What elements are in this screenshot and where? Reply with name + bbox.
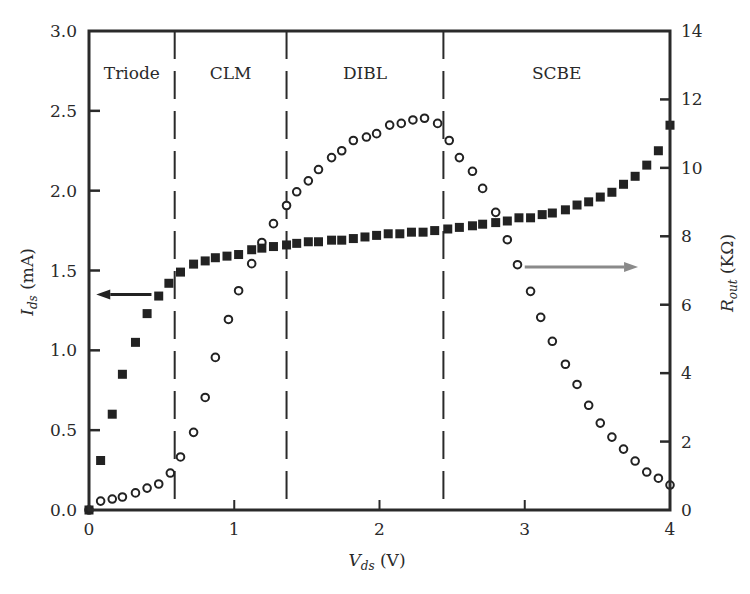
rout-circle-marker <box>608 433 616 441</box>
ids-square-marker <box>455 223 464 232</box>
region-label-dibl: DIBL <box>343 63 387 83</box>
right-y-tick-label: 4 <box>681 363 692 383</box>
region-label-clm: CLM <box>210 63 252 83</box>
x-axis-label-unit: (V) <box>375 550 406 570</box>
ids-square-marker <box>654 146 663 155</box>
left-y-axis-label-unit: (mA) <box>17 248 37 295</box>
ids-square-marker <box>131 338 140 347</box>
ids-square-marker <box>468 221 477 230</box>
rout-circle-marker <box>445 137 453 145</box>
ids-square-marker <box>96 456 105 465</box>
ids-square-marker <box>573 201 582 210</box>
x-tick-label: 4 <box>665 519 676 539</box>
ids-square-marker <box>269 242 278 251</box>
rout-circle-marker <box>585 402 593 410</box>
ids-square-marker <box>118 370 127 379</box>
ids-square-marker <box>384 229 393 238</box>
rout-circle-marker <box>514 261 522 269</box>
left-y-axis-label-sub: ds <box>26 295 40 309</box>
ids-square-marker <box>247 245 256 254</box>
rout-circle-marker <box>328 154 336 162</box>
ids-square-marker <box>282 240 291 249</box>
ids-square-marker <box>561 205 570 214</box>
rout-circle-marker <box>283 202 291 210</box>
x-tick-label: 0 <box>84 519 95 539</box>
rout-circle-marker <box>167 469 175 477</box>
ids-square-marker <box>222 252 231 261</box>
ids-square-marker <box>234 250 243 259</box>
x-tick-label: 1 <box>229 519 240 539</box>
rout-circle-marker <box>132 489 140 497</box>
rout-circle-marker <box>655 474 663 482</box>
rout-circle-marker <box>225 316 233 324</box>
ids-square-marker <box>108 410 117 419</box>
ids-square-marker <box>491 218 500 227</box>
rout-circle-marker <box>97 497 105 505</box>
ids-square-marker <box>143 309 152 318</box>
left-y-tick-label: 1.5 <box>50 261 77 281</box>
ids-square-marker <box>211 253 220 262</box>
rout-circle-marker <box>421 114 429 122</box>
rout-circle-marker <box>143 484 151 492</box>
right-y-axis-label-main: R <box>717 299 737 313</box>
right-y-tick-label: 8 <box>681 226 692 246</box>
rout-circle-marker <box>350 137 358 145</box>
ids-square-marker <box>201 256 210 265</box>
right-y-tick-label: 12 <box>681 89 703 109</box>
ids-square-marker <box>631 172 640 181</box>
left-y-tick-label: 2.0 <box>50 181 77 201</box>
ids-square-marker <box>419 228 428 237</box>
left-y-tick-label: 1.0 <box>50 340 77 360</box>
region-dividers <box>175 31 444 510</box>
rout-circle-marker <box>620 445 628 453</box>
region-label-triode: Triode <box>104 63 160 83</box>
x-axis-ticks: 01234 <box>84 500 676 539</box>
ids-square-marker <box>257 244 266 253</box>
rout-circle-marker <box>596 419 604 427</box>
rout-circle-marker <box>305 177 313 185</box>
right-y-axis-label-unit: (KΩ) <box>717 234 737 279</box>
rout-circle-marker <box>270 220 278 228</box>
right-y-tick-label: 14 <box>681 21 703 41</box>
ids-square-marker <box>538 210 547 219</box>
right-y-tick-label: 0 <box>681 500 692 520</box>
rout-circle-marker <box>338 147 346 155</box>
rout-circle-marker <box>119 493 127 501</box>
rout-circle-marker <box>190 429 198 437</box>
ids-square-marker <box>548 209 557 218</box>
ids-square-marker <box>443 224 452 233</box>
rout-circle-marker <box>363 133 371 141</box>
ids-square-marker <box>478 220 487 229</box>
arrow-right-icon <box>624 262 638 272</box>
rout-circle-marker <box>155 480 163 488</box>
right-y-tick-label: 6 <box>681 295 692 315</box>
rout-circle-marker <box>409 116 417 124</box>
ids-square-marker <box>607 188 616 197</box>
rout-circle-marker <box>549 338 557 346</box>
x-axis-label: Vds (V) <box>348 550 405 573</box>
rout-circle-marker <box>469 167 477 175</box>
left-y-axis-label: Ids (mA) <box>17 248 40 317</box>
ids-square-marker <box>292 239 301 248</box>
rout-circle-marker <box>492 209 500 217</box>
ids-square-marker <box>349 234 358 243</box>
rout-circle-marker <box>235 287 243 295</box>
ids-square-marker <box>619 180 628 189</box>
ids-square-marker <box>176 268 185 277</box>
right-y-tick-label: 2 <box>681 432 692 452</box>
rout-circle-marker <box>373 130 381 138</box>
left-y-tick-label: 3.0 <box>50 21 77 41</box>
ids-square-marker <box>526 213 535 222</box>
ids-square-marker <box>372 231 381 240</box>
arrow-left-icon <box>96 289 110 299</box>
ids-square-marker <box>584 197 593 206</box>
rout-circle-marker <box>562 360 570 368</box>
ids-square-marker <box>430 226 439 235</box>
left-y-tick-label: 2.5 <box>50 101 77 121</box>
right-y-axis-ticks: 02468101214 <box>660 21 703 520</box>
series-rout-circles <box>85 114 674 513</box>
ids-square-marker <box>337 236 346 245</box>
rout-circle-marker <box>643 468 651 476</box>
rout-circle-marker <box>573 381 581 389</box>
left-y-tick-label: 0.5 <box>50 420 77 440</box>
